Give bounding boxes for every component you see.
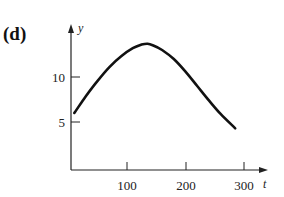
y-axis-arrow-icon	[68, 24, 74, 33]
x-axis-name: t	[263, 177, 267, 191]
y-tick-label-10: 10	[52, 70, 65, 85]
y-axis-name: y	[77, 21, 84, 35]
y-tick-label-5: 5	[59, 115, 66, 130]
x-tick-label-300: 300	[234, 178, 254, 193]
x-axis-arrow-icon	[259, 167, 268, 173]
x-tick-label-100: 100	[117, 178, 137, 193]
x-tick-label-200: 200	[176, 178, 196, 193]
line-chart: 10 5 100 200 300 y t	[0, 0, 284, 197]
data-curve	[74, 44, 235, 129]
